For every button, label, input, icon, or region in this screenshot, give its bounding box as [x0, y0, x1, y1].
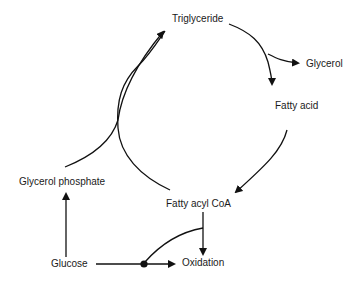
diagram-arrows — [0, 0, 361, 282]
arrow-glycerol-phosphate-to-triglyceride — [65, 32, 163, 167]
arrow-fatty-acid-to-fatty-acyl-coa — [236, 130, 287, 192]
arrow-triglyceride-to-fatty-acid — [229, 24, 272, 84]
node-fatty-acyl-coa: Fatty acyl CoA — [166, 198, 231, 210]
node-glucose: Glucose — [51, 258, 88, 270]
node-oxidation: Oxidation — [182, 257, 224, 269]
metabolic-cycle-diagram: Triglyceride Glycerol Fatty acid Fatty a… — [0, 0, 361, 282]
arrow-fatty-acyl-coa-to-triglyceride — [118, 31, 170, 190]
arrow-to-glycerol — [268, 54, 298, 63]
node-fatty-acid: Fatty acid — [275, 100, 318, 112]
junction-dot — [140, 260, 147, 267]
node-triglyceride: Triglyceride — [172, 13, 223, 25]
node-glycerol: Glycerol — [306, 58, 343, 70]
node-glycerol-phosphate: Glycerol phosphate — [19, 176, 105, 188]
